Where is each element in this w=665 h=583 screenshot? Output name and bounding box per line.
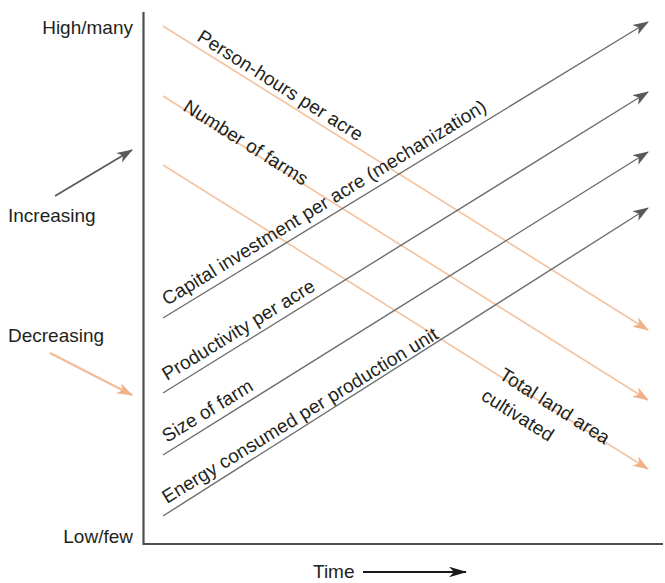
decreasing-key-group: Decreasing	[8, 325, 132, 395]
y-axis-bottom-label: Low/few	[63, 526, 133, 547]
increasing-key-label: Increasing	[8, 205, 96, 226]
decreasing-arrow-icon	[50, 353, 132, 395]
chart-figure: High/many Low/few Time Increasing Decrea…	[0, 0, 665, 583]
chart-canvas: High/many Low/few Time Increasing Decrea…	[0, 0, 665, 583]
series-line-person-hours-per-acre	[163, 26, 648, 330]
x-axis-label: Time	[313, 561, 355, 582]
increasing-key-group: Increasing	[8, 150, 132, 226]
increasing-arrow-icon	[55, 150, 132, 196]
x-axis-caption-group: Time	[313, 561, 466, 582]
series-label-number-of-farms: Number of farms	[180, 96, 312, 190]
decreasing-key-label: Decreasing	[8, 325, 104, 346]
y-axis-top-label: High/many	[42, 17, 133, 38]
series-label-size-of-farm: Size of farm	[158, 375, 256, 446]
